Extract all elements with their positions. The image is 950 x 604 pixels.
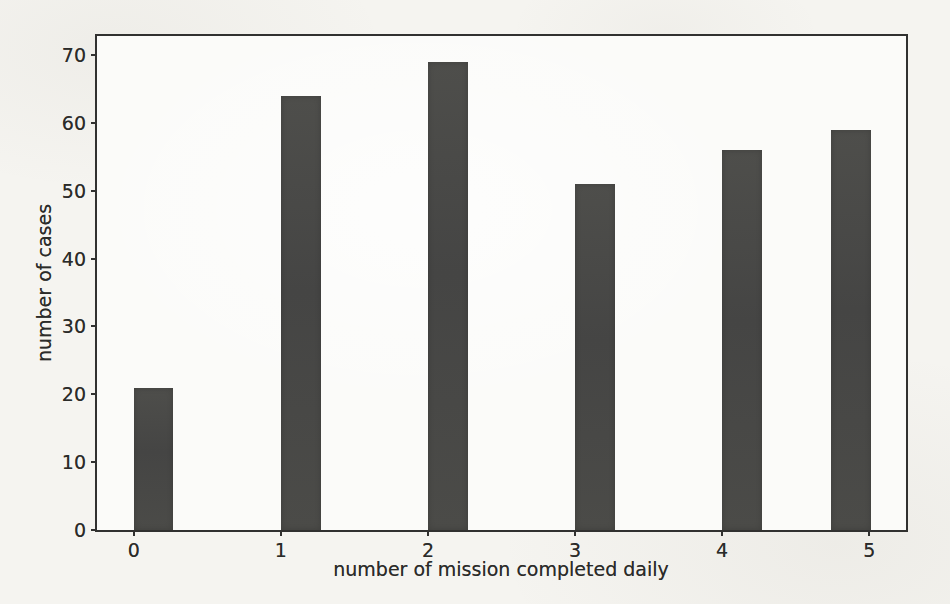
- plot-area: 012345010203040506070: [95, 34, 908, 532]
- y-axis-label: number of cases: [33, 204, 55, 362]
- x-tick-mark: [280, 530, 282, 536]
- x-tick-mark: [427, 530, 429, 536]
- y-tick-mark: [91, 393, 97, 395]
- bar-x5: [831, 130, 871, 530]
- y-tick-mark: [91, 122, 97, 124]
- y-tick-label: 50: [62, 180, 86, 202]
- bar-x1: [281, 96, 321, 530]
- bar-x3: [575, 184, 615, 530]
- y-tick-mark: [91, 461, 97, 463]
- bar-x4: [722, 150, 762, 530]
- scanned-book-page: 012345010203040506070 number of cases nu…: [0, 0, 950, 604]
- bar-x0: [134, 388, 174, 531]
- y-tick-label: 40: [62, 248, 86, 270]
- x-tick-label: 4: [716, 539, 728, 561]
- y-tick-mark: [91, 190, 97, 192]
- y-tick-mark: [91, 529, 97, 531]
- y-tick-mark: [91, 54, 97, 56]
- x-tick-label: 0: [128, 539, 140, 561]
- y-tick-label: 20: [62, 383, 86, 405]
- y-tick-label: 70: [62, 44, 86, 66]
- y-tick-mark: [91, 325, 97, 327]
- x-axis-label: number of mission completed daily: [333, 558, 668, 580]
- y-tick-label: 30: [62, 315, 86, 337]
- x-tick-mark: [133, 530, 135, 536]
- x-tick-mark: [868, 530, 870, 536]
- y-tick-label: 60: [62, 112, 86, 134]
- x-tick-label: 1: [275, 539, 287, 561]
- x-tick-mark: [574, 530, 576, 536]
- y-tick-mark: [91, 258, 97, 260]
- y-tick-label: 10: [62, 451, 86, 473]
- x-tick-mark: [721, 530, 723, 536]
- bar-x2: [428, 62, 468, 530]
- x-tick-label: 5: [863, 539, 875, 561]
- y-tick-label: 0: [74, 519, 86, 541]
